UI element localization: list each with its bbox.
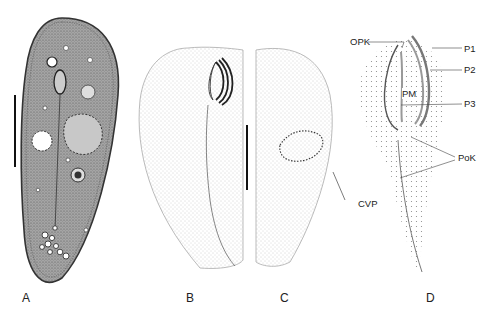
scale-bar-a: [14, 95, 16, 167]
callout-pm: PM: [402, 88, 416, 99]
callout-pok: PoK: [458, 152, 476, 163]
callout-cvp: CVP: [358, 198, 378, 209]
panel-d-oral-apparatus: [359, 36, 462, 275]
callout-p3: P3: [464, 98, 476, 109]
panel-label-d: D: [426, 291, 435, 305]
panel-a-cell-drawing: [21, 18, 118, 282]
figure-canvas: [0, 0, 494, 315]
callout-p1: P1: [464, 43, 476, 54]
panel-b-ventral-view: [139, 47, 243, 268]
callout-opk: OPK: [350, 36, 370, 47]
scale-bar-bc: [246, 125, 248, 190]
panel-label-a: A: [22, 291, 30, 305]
callout-p2: P2: [464, 64, 476, 75]
panel-c-dorsal-view: [256, 48, 345, 266]
panel-label-b: B: [186, 291, 194, 305]
panel-label-c: C: [280, 291, 289, 305]
